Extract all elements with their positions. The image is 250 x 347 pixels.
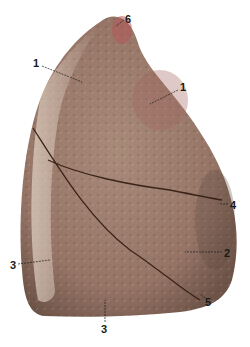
label-1-upper-right: 1: [180, 82, 186, 93]
lung-body: [21, 16, 237, 317]
label-5-oblique-fissure: 5: [205, 297, 211, 308]
label-3-left: 3: [10, 260, 16, 271]
label-4-horizontal-fissure: 4: [230, 200, 236, 211]
label-3-bottom: 3: [101, 324, 107, 335]
label-1-upper-left: 1: [33, 58, 39, 69]
label-2: 2: [224, 248, 230, 259]
label-6-apex: 6: [125, 14, 131, 25]
lung-illustration: [0, 0, 250, 347]
